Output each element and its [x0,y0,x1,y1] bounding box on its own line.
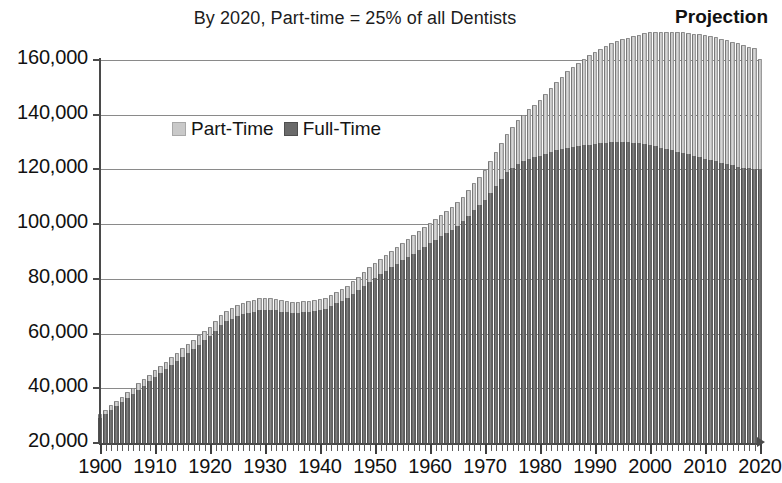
x-axis-minor-tick [458,444,459,451]
bar-segment-part-time [554,82,558,150]
x-axis-minor-tick [315,444,316,451]
bar-column [631,58,635,443]
bar-segment-full-time [510,168,514,443]
bar-segment-part-time [604,46,608,143]
bar-segment-part-time [202,331,206,340]
bar-column [329,58,333,443]
bar-segment-part-time [340,289,344,301]
bar-segment-part-time [235,305,239,316]
x-axis-minor-tick [287,444,288,451]
bar-column [527,58,531,443]
bar-segment-part-time [268,298,272,310]
bar-segment-full-time [692,156,696,443]
bar-segment-full-time [367,282,371,443]
bar-segment-part-time [505,134,509,172]
bar-column [334,58,338,443]
bar-column [582,58,586,443]
x-axis-minor-tick [700,444,701,451]
bar-segment-part-time [422,227,426,247]
bar-column [576,58,580,443]
bar-column [697,58,701,443]
x-axis-minor-tick [491,444,492,451]
bar-segment-part-time [598,49,602,144]
bar-segment-full-time [670,150,674,443]
bar-segment-full-time [268,310,272,443]
x-axis-major-tick [705,444,707,454]
x-axis-minor-tick [139,444,140,451]
bar-segment-full-time [175,361,179,443]
x-axis-minor-tick [414,444,415,451]
x-axis-minor-tick [469,444,470,451]
bar-column [422,58,426,443]
bar-column [521,58,525,443]
x-axis-minor-tick [612,444,613,451]
bar-column [219,58,223,443]
bar-segment-part-time [549,88,553,152]
x-axis-label: 2000 [628,455,671,478]
bar-column [362,58,366,443]
bar-segment-full-time [648,145,652,443]
x-axis-minor-tick [425,444,426,451]
x-axis-minor-tick [166,444,167,451]
bar-column [675,58,679,443]
bars-layer [100,58,760,443]
bar-segment-full-time [565,148,569,443]
bar-column [197,58,201,443]
chart-title: By 2020, Part-time = 25% of all Dentists [120,8,590,29]
bar-segment-full-time [433,240,437,443]
y-axis-label: 80,000 [28,265,88,288]
bar-segment-part-time [543,94,547,154]
bar-segment-full-time [461,221,465,443]
x-axis-major-tick [485,444,487,454]
bar-segment-part-time [521,115,525,161]
y-axis-tick [93,59,101,61]
x-axis-minor-tick [733,444,734,451]
bar-segment-full-time [279,312,283,443]
bar-segment-part-time [747,47,751,169]
bar-segment-part-time [433,219,437,240]
x-axis-label: 1960 [408,455,451,478]
y-axis-tick [93,333,101,335]
bar-segment-part-time [466,190,470,216]
bar-segment-full-time [571,147,575,443]
bar-segment-part-time [609,43,613,142]
bar-segment-part-time [472,183,476,210]
legend-label-full-time: Full-Time [303,118,381,140]
bar-segment-part-time [631,36,635,143]
x-axis-minor-tick [518,444,519,451]
bar-column [543,58,547,443]
x-axis-minor-tick [645,444,646,451]
bar-segment-full-time [230,319,234,443]
x-axis-minor-tick [573,444,574,451]
bar-segment-full-time [356,290,360,443]
x-axis-minor-tick [183,444,184,451]
bar-segment-part-time [175,353,179,361]
bar-segment-full-time [147,381,151,443]
x-axis-major-tick [265,444,267,454]
bar-segment-full-time [213,331,217,443]
bar-segment-part-time [494,152,498,186]
bar-segment-part-time [741,45,745,167]
x-axis-label: 1980 [518,455,561,478]
bar-segment-part-time [296,302,300,313]
x-axis-minor-tick [474,444,475,451]
bar-segment-full-time [153,377,157,443]
bar-segment-part-time [180,348,184,356]
bar-segment-part-time [406,239,410,257]
x-axis-minor-tick [221,444,222,451]
bar-column [736,58,740,443]
bar-column [367,58,371,443]
bar-segment-part-time [659,32,663,148]
bar-segment-part-time [692,34,696,156]
bar-segment-full-time [708,160,712,443]
bar-segment-full-time [505,172,509,443]
bar-column [510,58,514,443]
bar-column [725,58,729,443]
x-axis-minor-tick [309,444,310,451]
bar-segment-part-time [736,43,740,166]
bar-column [730,58,734,443]
bar-segment-part-time [620,39,624,142]
x-axis-minor-tick [282,444,283,451]
bar-segment-full-time [125,398,129,443]
x-axis-label: 1930 [243,455,286,478]
